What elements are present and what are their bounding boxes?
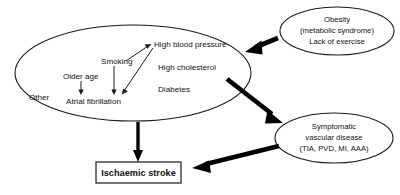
- arrow-smoking-down: [111, 66, 116, 95]
- risk-factor-diabetes: Diabetes: [158, 85, 190, 94]
- risk-factor-atrial-fibrillation: Atrial fibrillation: [66, 97, 121, 106]
- obesity-label-line2: (metabolic syndrome): [300, 26, 374, 35]
- obesity-label-line1: Obesity: [324, 15, 350, 24]
- vascular-label-line1: Symptomatic: [312, 122, 357, 131]
- risk-factor-older-age: Older age: [63, 72, 99, 81]
- risk-factor-smoking: Smoking: [101, 57, 133, 66]
- obesity-label-line3: Lack of exercise: [309, 37, 365, 46]
- risk-factor-high-cholesterol: High cholesterol: [158, 63, 216, 72]
- arrow-risk-factors-to-vascular-disease: [227, 79, 283, 124]
- ischaemic-stroke-label: Ischaemic stroke: [101, 168, 176, 178]
- arrow-vascular-disease-to-stroke: [192, 146, 279, 173]
- arrow-obesity-to-risk-factors: [245, 38, 278, 55]
- vascular-label-line2: vascular disease: [305, 133, 362, 142]
- vascular-label-line3: (TIA, PVD, MI, AAA): [299, 144, 369, 153]
- risk-factor-high-blood-pressure: High blood pressure: [154, 40, 227, 49]
- arrow-high-blood-pressure-to-atrial-fibrillation: [122, 48, 153, 95]
- arrow-risk-factors-to-stroke: [133, 122, 143, 162]
- risk-factor-other: Other: [29, 93, 50, 102]
- arrow-older-age-down: [78, 81, 83, 95]
- diagram-canvas: Other Older age Smoking Atrial fibrillat…: [0, 0, 400, 195]
- stroke-risk-diagram: Other Older age Smoking Atrial fibrillat…: [0, 0, 400, 195]
